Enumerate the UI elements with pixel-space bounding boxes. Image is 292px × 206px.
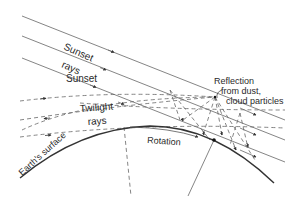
arrow-icon (234, 146, 236, 150)
reflection-ray (240, 113, 248, 148)
arrow-icon (240, 150, 256, 157)
observer-point (212, 138, 216, 142)
particle-point (214, 96, 216, 98)
reference-line (124, 127, 131, 196)
reflection-ray (203, 97, 215, 135)
arrow-icon (182, 118, 183, 121)
observer-line (188, 140, 214, 196)
twilight-ray-1 (20, 94, 215, 101)
reflection-ray (170, 90, 180, 120)
label-reflection-3: cloud particles (226, 96, 284, 106)
label-earth-surface: Earth's surface (17, 130, 68, 177)
reflection-ray (230, 113, 240, 145)
label-sunset: Sunset (66, 73, 97, 84)
arrow-icon (90, 85, 96, 87)
arrow-icon (240, 108, 256, 115)
arrow-icon (108, 50, 114, 52)
arrow-icon (44, 118, 50, 119)
label-reflection-1: Reflection (214, 76, 254, 86)
twilight-diagram: Sunset Sunset rays Twilight rays Reflect… (0, 0, 292, 206)
arrow-icon (247, 143, 248, 147)
label-twilight-rays: rays (87, 115, 107, 127)
label-reflection-2: from dust, (221, 86, 261, 96)
arrow-icon (240, 128, 256, 135)
label-rotation: Rotation (147, 135, 181, 147)
arrow-icon (45, 135, 51, 136)
label-twilight: Twilight (79, 101, 113, 114)
reflection-ray (215, 97, 222, 135)
arrow-icon (221, 131, 222, 135)
